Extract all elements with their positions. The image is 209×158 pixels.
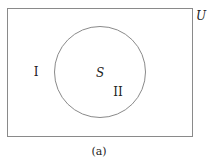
region-ii-label: II: [113, 85, 123, 99]
region-i-label: I: [34, 65, 39, 79]
venn-diagram: U I S II (a): [0, 0, 209, 158]
set-s-label: S: [96, 66, 104, 80]
figure-caption: (a): [91, 145, 106, 158]
universe-label: U: [196, 9, 207, 23]
